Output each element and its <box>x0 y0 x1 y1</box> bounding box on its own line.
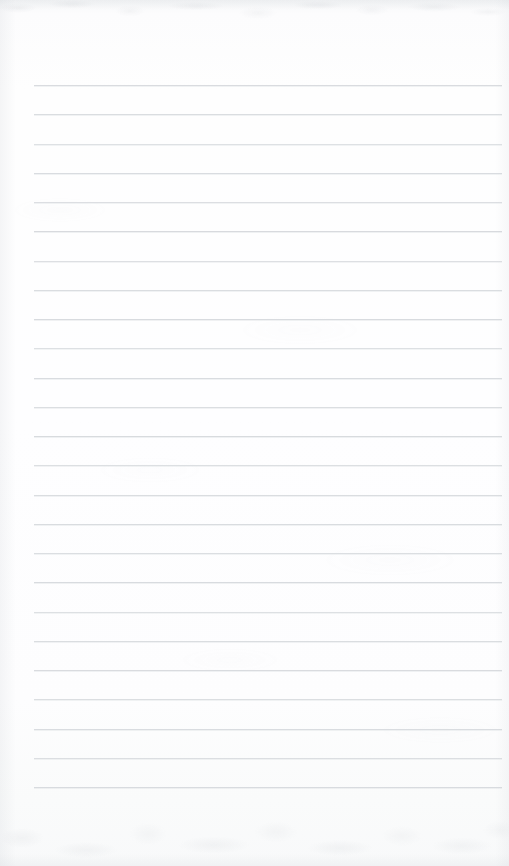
notepad-page <box>0 0 509 866</box>
page-text-content[interactable] <box>34 60 502 820</box>
